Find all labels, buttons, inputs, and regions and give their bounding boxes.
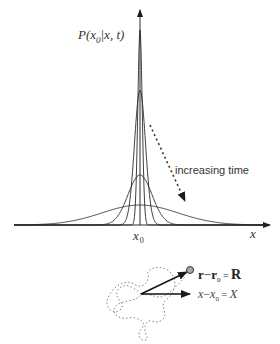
vector-X-label: x−x0 = X [197,286,239,303]
x-axis-label: x [249,226,256,241]
y-axis-label: P(x0|x, t) [77,27,124,45]
vector-R [141,272,187,294]
diffusion-diagram: P(x0|x, t) increasing time x x0 r−r0 = R… [0,0,280,344]
particle-endpoint [187,267,194,274]
x0-label: x0 [132,228,144,245]
vector-R-label: r−r0 = R [198,267,242,284]
increasing-time-label: increasing time [175,164,249,176]
increasing-time-arrow [150,125,185,201]
